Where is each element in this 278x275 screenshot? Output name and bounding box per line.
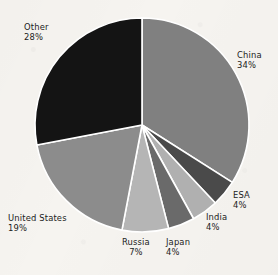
slice-label-united-states-name: United States [8,213,67,223]
slice-label-other: Other 28% [24,22,49,42]
slice-label-united-states: United States 19% [8,213,67,233]
slice-label-united-states-pct: 19% [8,223,67,233]
slice-label-japan-name: Japan [166,237,190,247]
slice-label-japan-pct: 4% [166,247,190,257]
slice-label-other-name: Other [24,22,49,32]
slice-label-russia: Russia 7% [122,237,150,257]
slice-label-china-pct: 34% [237,60,262,70]
slice-label-russia-name: Russia [122,237,150,247]
pie-slices-group [35,18,249,232]
slice-label-other-pct: 28% [24,32,49,42]
slice-label-esa-pct: 4% [233,200,250,210]
slice-label-esa: ESA 4% [233,190,250,210]
slice-label-japan: Japan 4% [166,237,190,257]
slice-label-china: China 34% [237,50,262,70]
slice-label-india: India 4% [206,212,227,232]
pie-chart-figure: Other 28% China 34% ESA 4% India 4% Japa… [0,0,278,275]
slice-label-india-name: India [206,212,227,222]
slice-label-esa-name: ESA [233,190,250,200]
slice-label-china-name: China [237,50,262,60]
slice-label-russia-pct: 7% [122,247,150,257]
slice-label-india-pct: 4% [206,222,227,232]
pie-slice-other [35,18,142,145]
